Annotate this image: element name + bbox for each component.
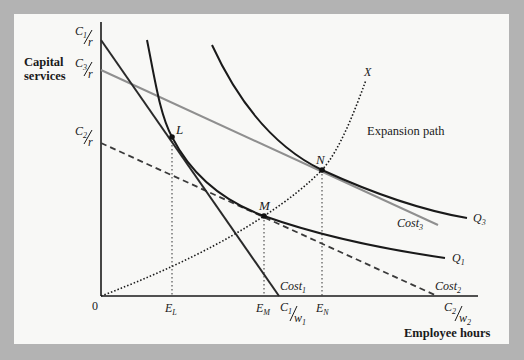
svg-text:C1: C1: [280, 300, 292, 316]
ytick-c1-r: C1 r: [75, 24, 93, 49]
label-cost2: Cost2: [435, 279, 461, 295]
svg-text:C3: C3: [75, 56, 87, 72]
expansion-path: [101, 80, 366, 296]
svg-text:EN: EN: [315, 301, 329, 317]
cost2-line: [101, 143, 437, 296]
origin-label: 0: [92, 299, 98, 313]
label-q1: Q1: [452, 251, 465, 267]
point-M: [261, 213, 267, 219]
label-expansion-path: Expansion path: [367, 124, 445, 138]
label-L: L: [175, 122, 183, 137]
svg-text:C2: C2: [75, 124, 87, 140]
xtick-EL: EL: [164, 301, 177, 317]
label-X: X: [363, 65, 372, 79]
isocost-diagram: L M N X Expansion path Capital services …: [0, 0, 524, 360]
xtick-c2-w2: C2 w2: [444, 300, 471, 327]
svg-text:C2: C2: [444, 300, 456, 316]
ytick-c3-r: C3 r: [75, 56, 93, 81]
y-axis-label-line2: services: [24, 69, 66, 83]
svg-text:r: r: [88, 135, 93, 149]
label-cost3: Cost3: [397, 216, 423, 232]
svg-text:C1: C1: [75, 24, 87, 40]
xtick-EN: EN: [315, 301, 329, 317]
point-L: [169, 134, 175, 140]
cost1-line: [101, 40, 279, 296]
label-M: M: [258, 198, 271, 213]
x-axis-label: Employee hours: [404, 326, 491, 340]
point-N: [319, 167, 325, 173]
label-N: N: [315, 152, 326, 167]
svg-text:w1: w1: [294, 311, 306, 327]
label-cost1: Cost1: [280, 279, 306, 295]
svg-text:r: r: [88, 35, 93, 49]
svg-text:w2: w2: [459, 311, 471, 327]
xtick-c1-w1: C1 w1: [280, 300, 306, 327]
svg-text:r: r: [88, 67, 93, 81]
ytick-c2-r: C2 r: [75, 124, 93, 149]
y-axis-label-line1: Capital: [24, 55, 64, 69]
xtick-EM: EM: [255, 301, 271, 317]
label-q3: Q3: [473, 211, 486, 227]
svg-text:EM: EM: [255, 301, 271, 317]
svg-text:EL: EL: [164, 301, 177, 317]
